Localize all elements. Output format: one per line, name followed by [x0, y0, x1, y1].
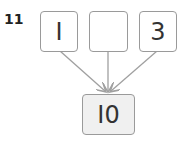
top-box-3: 3 — [139, 11, 177, 52]
top-box-2-blank[interactable] — [89, 11, 128, 52]
top-box-1: I — [40, 11, 78, 52]
result-box: I0 — [82, 94, 135, 135]
